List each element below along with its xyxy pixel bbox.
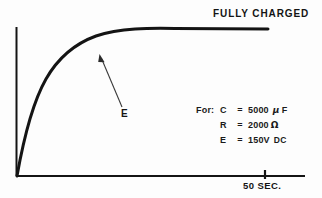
parameter-value-e: 150V [248, 136, 270, 145]
unit-ohm-symbol: Ω [271, 121, 279, 130]
unit-farad: F [282, 106, 288, 115]
parameter-row-voltage: E = 150V DC [196, 136, 287, 151]
parameter-equals-r: = [232, 121, 248, 130]
parameters-block: For: C = 5000 μ F R = 2000 Ω E = 150V DC [196, 106, 287, 151]
parameter-symbol-e: E [220, 136, 232, 145]
parameters-prefix: For: [196, 106, 220, 115]
rc-charging-curve-figure: FULLY CHARGED E 50 SEC. For: C = 5000 μ … [0, 0, 322, 198]
parameter-equals-e: = [232, 136, 248, 145]
parameter-symbol-c: C [220, 106, 232, 115]
fully-charged-label: FULLY CHARGED [213, 9, 309, 19]
unit-micro-symbol: μ [273, 106, 280, 115]
curve-leader-line [102, 59, 123, 108]
parameter-value-c: 5000 [248, 106, 269, 115]
charging-curve [17, 28, 268, 176]
curve-leader-arrowhead [98, 54, 104, 62]
curve-label-e: E [121, 109, 128, 119]
parameter-row-capacitance: For: C = 5000 μ F [196, 106, 287, 121]
x-axis-tick-label: 50 SEC. [243, 181, 281, 191]
unit-dc: DC [274, 136, 287, 145]
parameter-row-resistance: R = 2000 Ω [196, 121, 287, 136]
plot-area [0, 0, 322, 198]
parameter-equals-c: = [232, 106, 248, 115]
parameter-value-r: 2000 [248, 121, 269, 130]
parameter-symbol-r: R [220, 121, 232, 130]
